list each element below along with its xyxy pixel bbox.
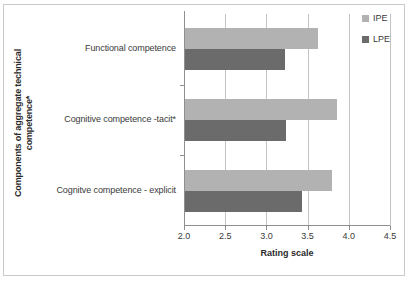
plot-area <box>184 14 390 226</box>
y-axis-category-labels: Functional competenceCognitive competenc… <box>30 14 180 226</box>
x-axis-tick-labels: 2.02.53.03.54.04.5 <box>184 231 390 245</box>
bar-ipe <box>185 99 337 120</box>
y-axis-title-line-1: Components of aggregate technical <box>13 7 24 239</box>
legend-item-lpe[interactable]: LPE <box>362 32 406 46</box>
x-axis-tick <box>184 226 185 230</box>
y-axis-category-label: Cognitive competence -tacit* <box>28 114 176 124</box>
legend-label: IPE <box>373 13 388 23</box>
x-axis-tick-label: 2.0 <box>164 231 204 241</box>
y-axis-category-label: Cognitve competence - explicit <box>28 185 176 195</box>
x-axis-line <box>184 225 390 226</box>
x-axis-tick-label: 4.5 <box>370 231 409 241</box>
x-axis-tick <box>308 226 309 230</box>
bar-lpe <box>185 191 302 212</box>
value-axis-line <box>184 11 185 227</box>
chart-figure: Components of aggregate technical compet… <box>0 0 409 281</box>
y-axis-category-label: Functional competence <box>28 43 176 53</box>
x-axis-title: Rating scale <box>184 248 390 258</box>
clipped-top-text <box>44 0 224 4</box>
chart-legend: IPELPE <box>362 11 406 53</box>
x-axis-tick-label: 4.0 <box>329 231 369 241</box>
x-axis-tick-label: 3.5 <box>288 231 328 241</box>
x-axis-tick <box>225 226 226 230</box>
legend-label: LPE <box>373 34 390 44</box>
gridline <box>349 14 350 226</box>
bar-lpe <box>185 120 286 141</box>
legend-swatch-icon <box>362 36 369 43</box>
x-axis-tick <box>390 226 391 230</box>
x-axis-tick <box>266 226 267 230</box>
legend-swatch-icon <box>362 15 369 22</box>
bar-ipe <box>185 28 318 49</box>
bar-lpe <box>185 49 285 70</box>
legend-item-ipe[interactable]: IPE <box>362 11 406 25</box>
bar-ipe <box>185 170 332 191</box>
x-axis-tick <box>349 226 350 230</box>
x-axis-tick-label: 2.5 <box>205 231 245 241</box>
x-axis-tick-label: 3.0 <box>246 231 286 241</box>
